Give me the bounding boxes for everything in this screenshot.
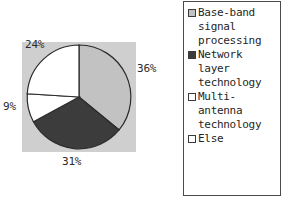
legend-item-base-band[interactable]: Base-band signal processing xyxy=(188,6,277,48)
pie-label-else: 24% xyxy=(25,38,44,51)
legend-swatch-icon xyxy=(188,9,196,17)
pie-label-network-layer: 31% xyxy=(62,155,81,168)
legend-item-multi-antenna[interactable]: Multi- antenna technology xyxy=(188,90,277,132)
legend-swatch-icon xyxy=(188,135,196,143)
legend-swatch-icon xyxy=(188,51,196,59)
legend-item-network-layer[interactable]: Network layer technology xyxy=(188,48,277,90)
pie-label-base-band: 36% xyxy=(137,62,156,75)
legend-swatch-icon xyxy=(188,93,196,101)
pie-label-multi-antenna: 9% xyxy=(3,100,16,113)
legend-item-else[interactable]: Else xyxy=(188,132,277,146)
legend-label-network-layer: Network layer technology xyxy=(198,48,261,90)
legend-label-else: Else xyxy=(198,132,223,146)
chart-figure: 24% 36% 9% 31% Base-band signal processi… xyxy=(0,0,284,210)
pie-slice-else[interactable] xyxy=(27,45,79,97)
pie-svg xyxy=(24,43,134,151)
legend-label-base-band: Base-band signal processing xyxy=(198,6,261,48)
legend: Base-band signal processing Network laye… xyxy=(183,1,281,196)
legend-label-multi-antenna: Multi- antenna technology xyxy=(198,90,261,132)
pie-chart xyxy=(24,43,134,151)
